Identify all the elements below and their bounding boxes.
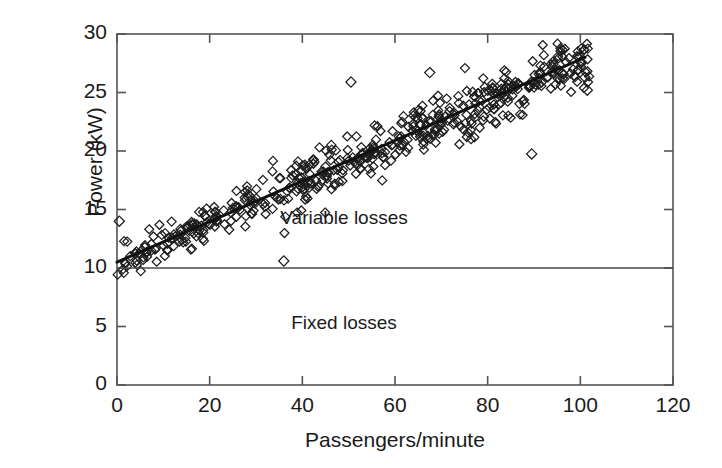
x-axis-label: Passengers/minute	[305, 428, 485, 451]
x-axis-label-wrapper: Passengers/minute	[117, 428, 673, 452]
y-tick-label: 5	[59, 313, 107, 337]
x-tick-label: 40	[262, 393, 342, 417]
x-tick-label: 120	[633, 393, 713, 417]
y-tick-label: 25	[59, 79, 107, 103]
x-tick-label: 100	[540, 393, 620, 417]
x-tick-label: 20	[170, 393, 250, 417]
y-tick-label: 15	[59, 196, 107, 220]
y-tick-label: 30	[59, 20, 107, 44]
x-tick-label: 0	[77, 393, 157, 417]
y-tick-label: 0	[59, 371, 107, 395]
plot-annotation: Fixed losses	[264, 312, 424, 334]
x-tick-label: 80	[448, 393, 528, 417]
x-tick-label: 60	[355, 393, 435, 417]
y-tick-label: 20	[59, 137, 107, 161]
plot-annotation: Variable losses	[264, 207, 424, 229]
scatter-chart-figure: Power (kW) Passengers/minute 05101520253…	[0, 0, 722, 468]
y-tick-label: 10	[59, 254, 107, 278]
trend-line	[117, 57, 585, 262]
